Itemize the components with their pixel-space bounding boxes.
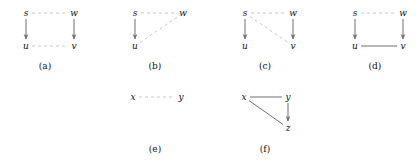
graph-edge-c-s-v <box>250 16 288 42</box>
graph-node-a-u: u <box>23 42 29 51</box>
graph-node-d-v: v <box>400 42 405 51</box>
graph-node-f-z: z <box>286 124 291 133</box>
panel-caption-e: (e) <box>149 145 161 154</box>
graph-node-e-x: x <box>130 93 135 102</box>
graph-node-d-s: s <box>353 9 358 18</box>
panel-caption-d: (d) <box>369 62 382 71</box>
graph-node-c-w: w <box>289 9 297 18</box>
graph-node-b-s: s <box>133 9 138 18</box>
graph-node-c-s: s <box>243 9 248 18</box>
panel-caption-f: (f) <box>260 145 270 154</box>
graph-node-c-v: v <box>290 42 295 51</box>
graph-node-f-x: x <box>241 93 246 102</box>
panel-caption-c: (c) <box>259 62 271 71</box>
graph-node-c-u: u <box>242 42 248 51</box>
graph-edge-f-x-z <box>249 100 283 124</box>
graph-node-e-y: y <box>178 93 183 102</box>
edges-canvas <box>0 0 419 165</box>
graph-edge-b-u-w <box>140 16 178 42</box>
graph-node-a-s: s <box>24 9 29 18</box>
figure-root: swuv(a)swu(b)swuv(c)swuv(d)xy(e)xyz(f) <box>0 0 419 165</box>
graph-node-a-v: v <box>71 42 76 51</box>
graph-node-a-w: w <box>70 9 78 18</box>
edge-layer <box>26 13 403 125</box>
graph-node-b-w: w <box>179 9 187 18</box>
graph-node-b-u: u <box>132 42 138 51</box>
panel-caption-a: (a) <box>39 62 51 71</box>
graph-node-d-u: u <box>352 42 358 51</box>
graph-node-d-w: w <box>399 9 407 18</box>
graph-node-f-y: y <box>285 93 290 102</box>
panel-caption-b: (b) <box>149 62 162 71</box>
